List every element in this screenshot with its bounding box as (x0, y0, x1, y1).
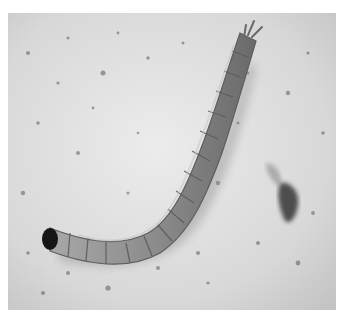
larva-head (42, 228, 58, 250)
larva-photo (8, 13, 336, 310)
surface-background (8, 13, 336, 310)
larva-illustration (8, 13, 336, 310)
